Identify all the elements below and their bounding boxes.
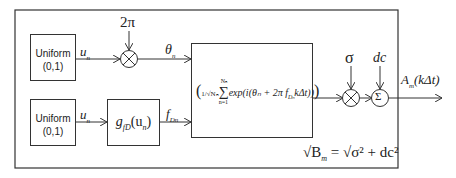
uniform-block-top: Uniform (0,1) bbox=[30, 34, 76, 81]
mapping-block: gfD(un) bbox=[107, 99, 160, 146]
u-bottom-label: un bbox=[80, 107, 90, 125]
sigma-label: σ bbox=[345, 49, 354, 67]
exp-body: exp(i(θₙ + 2π f bbox=[229, 87, 288, 98]
two-pi-label: 2π bbox=[120, 14, 135, 31]
sum-lower: n=1 bbox=[219, 99, 228, 105]
output-label: Am(kΔt) bbox=[401, 72, 440, 90]
uniform-top-range: (0,1) bbox=[31, 60, 75, 73]
norm-factor: 1/√Nₙ bbox=[201, 90, 218, 98]
mapping-sub: fD bbox=[123, 123, 131, 132]
sum-operator-icon: Σ bbox=[375, 90, 381, 102]
theta-label: θn bbox=[165, 42, 175, 60]
exp-end: kΔt)) bbox=[294, 87, 314, 98]
uniform-top-label: Uniform bbox=[31, 47, 75, 60]
sum-upper: Nₙ bbox=[221, 77, 227, 84]
sum-glyph: ∑ bbox=[219, 84, 229, 99]
u-top-label: un bbox=[80, 44, 90, 62]
sigma-symbol: Nₙ∑n=1 bbox=[219, 84, 229, 100]
dc-label: dc bbox=[373, 50, 386, 66]
mapping-func: g bbox=[116, 114, 123, 129]
rms-equation: √Bm = √σ² + dc² bbox=[303, 144, 398, 163]
mapping-close: ) bbox=[147, 114, 152, 129]
uniform-bottom-label: Uniform bbox=[31, 112, 75, 125]
fD-label: fDn bbox=[166, 106, 178, 124]
uniform-bottom-range: (0,1) bbox=[31, 125, 75, 138]
mapping-arg: (u bbox=[131, 114, 143, 129]
sum-exp-block: (1/√NₙNₙ∑n=1exp(i(θₙ + 2π fDₙkΔt))) bbox=[191, 43, 313, 138]
uniform-block-bottom: Uniform (0,1) bbox=[30, 99, 76, 146]
